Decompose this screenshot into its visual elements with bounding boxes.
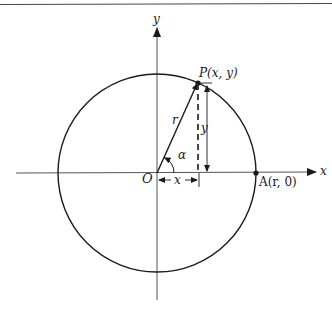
- x-dimension-label: x: [174, 173, 181, 187]
- x-axis: [16, 172, 316, 173]
- radius-line: [157, 84, 197, 173]
- x-axis-label: x: [320, 164, 327, 178]
- point-A-dot: [253, 170, 258, 175]
- angle-label: α: [178, 148, 186, 162]
- y-dimension-label: y: [200, 121, 208, 135]
- top-rule: [0, 4, 332, 5]
- point-P-dot: [195, 80, 200, 85]
- unit-circle-diagram: y x O P(x, y) A(r, 0) r α x y: [0, 0, 332, 315]
- point-A-text: A(r, 0): [258, 175, 297, 189]
- point-P-label: P(x, y): [198, 66, 238, 80]
- origin-label: O: [142, 171, 153, 186]
- angle-arc: [165, 158, 175, 173]
- point-A-label: A(r, 0): [258, 175, 297, 189]
- y-axis-label: y: [152, 12, 160, 26]
